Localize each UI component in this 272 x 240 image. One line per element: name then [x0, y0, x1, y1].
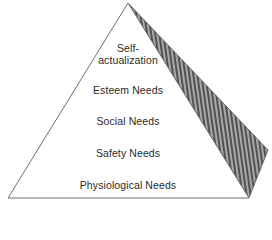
level-social-needs: Social Needs	[0, 115, 256, 127]
level-self-actualization-line2: actualization	[0, 54, 256, 66]
level-esteem-needs: Esteem Needs	[0, 84, 256, 96]
level-self-actualization-line1: Self-	[0, 42, 256, 54]
level-physiological-needs: Physiological Needs	[0, 179, 256, 191]
level-safety-needs: Safety Needs	[0, 147, 256, 159]
